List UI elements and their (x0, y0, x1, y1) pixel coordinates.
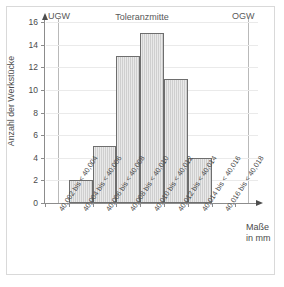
y-tick-label: 2 (12, 176, 38, 185)
upper-limit-label: OGW (232, 12, 255, 21)
y-axis-title: Anzahl der Werkstücke (6, 26, 16, 176)
y-axis-arrow-icon (42, 13, 48, 20)
x-tick-mark (45, 203, 46, 207)
x-axis-title-line1: Maße (246, 222, 269, 232)
y-tick-label: 0 (12, 199, 38, 208)
x-axis-title-line2: in mm (246, 233, 271, 243)
x-axis-title: Maße in mm (246, 222, 271, 244)
chart-screenshot: UGW Toleranzmitte OGW 0246810121416 40,0… (0, 0, 284, 287)
